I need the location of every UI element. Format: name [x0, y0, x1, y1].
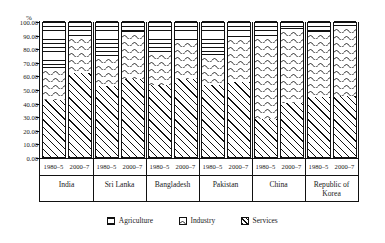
bar-segment-services: [69, 73, 91, 157]
legend-label: Agriculture: [119, 216, 153, 225]
stacked-bar[interactable]: [333, 22, 357, 158]
bar-segment-services: [96, 86, 118, 157]
bar-segment-services: [202, 85, 224, 157]
bar-group: [146, 22, 199, 158]
stacked-bar[interactable]: [254, 22, 278, 158]
x-axis-country-label: China: [252, 180, 305, 189]
group-separator: [252, 22, 253, 202]
bar-segment-industry: [334, 25, 356, 96]
bar-group: [40, 22, 93, 158]
bar-segment-agriculture: [255, 21, 277, 35]
group-separator: [93, 22, 94, 202]
bar-segment-services: [122, 79, 144, 157]
bar-group: [305, 22, 358, 158]
x-axis-country-label: Sri Lanka: [93, 180, 146, 189]
bar-segment-industry: [202, 54, 224, 85]
bar-segment-industry: [308, 31, 330, 98]
bar-segment-services: [43, 100, 65, 157]
stacked-bar[interactable]: [280, 22, 304, 158]
stacked-bar[interactable]: [68, 22, 92, 158]
stacked-bar[interactable]: [95, 22, 119, 158]
bar-segment-agriculture: [202, 21, 224, 54]
x-axis-country-label: India: [40, 180, 93, 189]
bar-group: [199, 22, 252, 158]
legend-swatch-services-icon: [241, 217, 249, 225]
legend-swatch-industry-icon: [179, 217, 187, 225]
group-separator: [305, 22, 306, 202]
bar-segment-agriculture: [149, 21, 171, 51]
bar-segment-industry: [281, 28, 303, 103]
bar-segment-agriculture: [43, 21, 65, 67]
x-axis-country-label: Republic of Korea: [305, 180, 358, 198]
chart-legend: AgricultureIndustryServices: [0, 216, 385, 225]
stacked-bar[interactable]: [307, 22, 331, 158]
bar-group: [93, 22, 146, 158]
bar-segment-agriculture: [334, 21, 356, 25]
group-separator: [199, 22, 200, 202]
bar-segment-services: [308, 97, 330, 157]
stacked-bar-chart: % 100.0090.0080.0070.0060.0050.0040.0030…: [0, 0, 385, 243]
bar-segment-agriculture: [96, 21, 118, 55]
stacked-bar[interactable]: [174, 22, 198, 158]
bar-segment-industry: [149, 51, 171, 85]
bar-segment-industry: [43, 67, 65, 100]
legend-item[interactable]: Services: [241, 216, 278, 225]
bar-segment-agriculture: [69, 21, 91, 35]
x-axis-country-label: Bangladesh: [146, 180, 199, 189]
bar-segment-agriculture: [308, 21, 330, 31]
stacked-bar[interactable]: [121, 22, 145, 158]
stacked-bar[interactable]: [148, 22, 172, 158]
stacked-bar[interactable]: [227, 22, 251, 158]
bar-segment-agriculture: [175, 21, 197, 39]
bar-segment-industry: [122, 31, 144, 80]
legend-item[interactable]: Industry: [179, 216, 215, 225]
bar-segment-industry: [228, 36, 250, 82]
bar-segment-industry: [255, 35, 277, 119]
bar-segment-agriculture: [228, 21, 250, 36]
x-axis-country-label: Pakistan: [199, 180, 252, 189]
legend-label: Services: [253, 216, 278, 225]
bar-segment-services: [228, 82, 250, 157]
y-axis-tick-labels: 100.0090.0080.0070.0060.0050.0040.0030.0…: [0, 0, 38, 243]
group-separator: [146, 22, 147, 202]
bar-group: [252, 22, 305, 158]
label-box-right-edge: [358, 22, 359, 202]
bar-segment-industry: [96, 55, 118, 86]
x-axis-period-label: 2000–7: [325, 163, 365, 170]
bar-segment-services: [255, 119, 277, 157]
legend-swatch-agriculture-icon: [107, 217, 115, 225]
bar-segment-agriculture: [122, 21, 144, 31]
stacked-bar[interactable]: [42, 22, 66, 158]
bar-segment-agriculture: [281, 21, 303, 28]
legend-label: Industry: [190, 216, 215, 225]
stacked-bar[interactable]: [201, 22, 225, 158]
bar-segment-services: [175, 79, 197, 157]
bar-segment-services: [334, 96, 356, 157]
bar-segment-industry: [175, 39, 197, 80]
legend-item[interactable]: Agriculture: [107, 216, 153, 225]
bar-segment-industry: [69, 35, 91, 73]
bar-segment-services: [149, 85, 171, 157]
bar-segment-services: [281, 103, 303, 157]
